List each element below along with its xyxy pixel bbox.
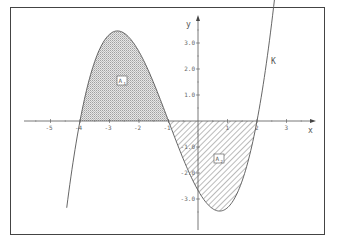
x-tick-label: 3 (285, 124, 289, 131)
y-tick-label: 3.0 (184, 39, 195, 46)
y-tick-label: -3.0 (181, 195, 196, 202)
region-a1-label: A 1 (117, 76, 127, 86)
function-plot: -5-4-3-2-1123 3.02.01.0-1.0-2.0-3.0 x y … (0, 0, 338, 247)
x-axis-label: x (308, 126, 313, 135)
region-a1-label-main: A (119, 77, 123, 84)
y-axis-label: y (186, 20, 191, 29)
y-tick-label: 1.0 (184, 91, 195, 98)
x-tick-label: -3 (105, 124, 113, 131)
x-tick-label: -5 (46, 124, 54, 131)
x-tick-label: -2 (134, 124, 142, 131)
x-axis-arrow-icon (310, 119, 316, 123)
region-a2-label-main: A (216, 155, 220, 162)
region-a2-label: A 2 (214, 154, 224, 164)
y-tick-label: 2.0 (184, 65, 195, 72)
y-axis-arrow-icon (196, 15, 200, 21)
x-tick-label: 1 (226, 124, 230, 131)
y-tick-label: -1.0 (181, 143, 196, 150)
curve-label-k: K (271, 57, 276, 66)
